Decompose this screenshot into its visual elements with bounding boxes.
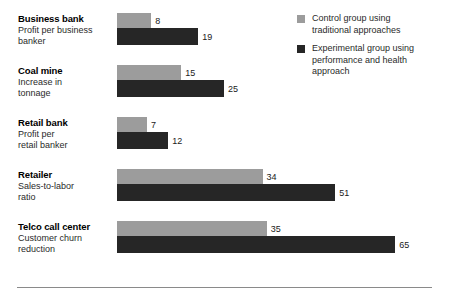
category-subtitle-line2: retail banker	[18, 140, 114, 151]
legend-label-line2: performance and health	[312, 55, 443, 67]
bottom-divider	[17, 287, 432, 288]
legend-label-line2: traditional approaches	[312, 25, 443, 37]
bar-experimental	[117, 80, 224, 97]
category-subtitle-line2: tonnage	[18, 88, 114, 99]
bar-value-experimental: 65	[395, 240, 409, 250]
legend-label-line3: approach	[312, 66, 443, 78]
bar-value-experimental: 19	[198, 32, 212, 42]
category-title: Retailer	[18, 169, 114, 181]
bar-value-control: 35	[267, 224, 281, 234]
category-subtitle-line2: banker	[18, 36, 114, 47]
category-title: Business bank	[18, 13, 114, 25]
category-title: Telco call center	[18, 221, 114, 233]
category-subtitle-line1: Profit per business	[18, 25, 114, 36]
bar-control	[117, 117, 147, 132]
bar-control	[117, 221, 267, 236]
legend-label-line1: Control group using	[312, 13, 443, 25]
bar-experimental	[117, 28, 198, 45]
bar-value-control: 8	[151, 16, 160, 26]
bar-value-experimental: 51	[335, 188, 349, 198]
bar-value-control: 7	[147, 120, 156, 130]
category-title: Retail bank	[18, 117, 114, 129]
bar-control	[117, 65, 181, 80]
bar-value-experimental: 12	[168, 136, 182, 146]
legend-swatch-icon-control	[297, 15, 305, 23]
bar-experimental	[117, 236, 395, 253]
bar-experimental	[117, 132, 168, 149]
category-subtitle-line2: reduction	[18, 244, 114, 255]
row-label-group: Telco call center Customer churn reducti…	[18, 221, 114, 255]
category-subtitle-line1: Sales-to-labor	[18, 181, 114, 192]
category-subtitle-line2: ratio	[18, 192, 114, 203]
chart-legend: Control group using traditional approach…	[297, 13, 443, 85]
bar-value-experimental: 25	[224, 84, 238, 94]
row-label-group: Retail bank Profit per retail banker	[18, 117, 114, 151]
category-subtitle-line1: Profit per	[18, 129, 114, 140]
bar-experimental	[117, 184, 335, 201]
bar-value-control: 15	[181, 68, 195, 78]
category-title: Coal mine	[18, 65, 114, 77]
category-subtitle-line1: Customer churn	[18, 233, 114, 244]
legend-item-experimental: Experimental group using performance and…	[297, 43, 443, 78]
bar-value-control: 34	[263, 172, 277, 182]
legend-item-control: Control group using traditional approach…	[297, 13, 443, 36]
bar-control	[117, 169, 263, 184]
legend-label-line1: Experimental group using	[312, 43, 443, 55]
legend-swatch-icon-experimental	[297, 45, 305, 53]
horizontal-bar-chart: Business bank Profit per business banker…	[0, 0, 449, 300]
category-subtitle-line1: Increase in	[18, 77, 114, 88]
row-label-group: Coal mine Increase in tonnage	[18, 65, 114, 99]
row-label-group: Retailer Sales-to-labor ratio	[18, 169, 114, 203]
bar-control	[117, 13, 151, 28]
row-label-group: Business bank Profit per business banker	[18, 13, 114, 47]
